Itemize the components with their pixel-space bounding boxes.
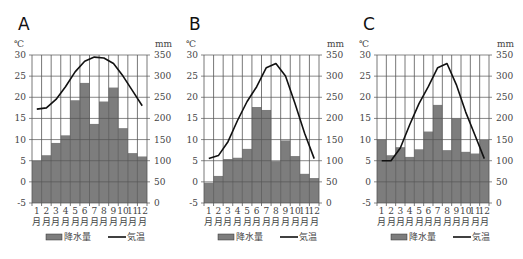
month-suffix-label: 月 (90, 217, 99, 227)
left-axis-tick: -5 (17, 198, 26, 208)
precipitation-bar (42, 155, 52, 203)
month-suffix-label: 月 (300, 217, 309, 227)
precipitation-bar (51, 143, 61, 203)
left-axis-tick: 25 (360, 71, 372, 81)
month-number-label: 5 (244, 206, 250, 216)
month-suffix-label: 月 (377, 217, 386, 227)
month-suffix-label: 月 (252, 217, 261, 227)
left-axis-tick: 20 (15, 92, 27, 102)
right-axis-tick: 100 (326, 156, 343, 166)
left-axis-tick: 0 (365, 177, 371, 187)
left-axis-tick: 5 (365, 156, 371, 166)
right-axis-tick: 200 (496, 113, 513, 123)
precipitation-bar (405, 157, 414, 203)
month-number-label: 6 (254, 206, 260, 216)
precipitation-bar (109, 88, 119, 203)
precipitation-bar (233, 158, 243, 203)
month-suffix-label: 月 (387, 217, 396, 227)
precipitation-bar (242, 149, 252, 203)
month-suffix-label: 月 (128, 217, 137, 227)
month-suffix-label: 月 (204, 217, 213, 227)
left-axis-tick: -5 (189, 198, 198, 208)
month-number-label: 7 (91, 206, 97, 216)
month-number-label: 2 (44, 206, 50, 216)
month-suffix-label: 月 (281, 217, 290, 227)
month-number-label: 6 (82, 206, 88, 216)
climate-chart-b: B ℃mm30350253002025015200101505100050-50… (172, 0, 347, 259)
month-number-label: 8 (444, 206, 450, 216)
right-axis-tick: 50 (154, 177, 166, 187)
right-axis-tick: 50 (496, 177, 508, 187)
month-suffix-label: 月 (51, 217, 60, 227)
month-number-label: 2 (216, 206, 222, 216)
precipitation-bar (300, 174, 310, 203)
month-number-label: 1 (379, 206, 385, 216)
month-number-label: 3 (397, 206, 403, 216)
legend-temperature-label: 気温 (127, 231, 145, 242)
left-axis-tick: -5 (362, 198, 371, 208)
month-number-label: 12 (479, 206, 490, 216)
right-axis-unit: mm (155, 39, 173, 49)
precipitation-bar (99, 102, 109, 203)
right-axis-tick: 100 (154, 156, 171, 166)
precipitation-bar (442, 150, 451, 203)
month-number-label: 8 (273, 206, 279, 216)
precipitation-bar (70, 100, 80, 203)
month-number-label: 7 (263, 206, 269, 216)
left-axis-tick: 0 (20, 177, 26, 187)
month-number-label: 9 (453, 206, 459, 216)
left-axis-tick: 25 (15, 71, 27, 81)
left-axis-tick: 0 (192, 177, 198, 187)
left-axis-unit: ℃ (359, 39, 369, 49)
right-axis-tick: 50 (326, 177, 338, 187)
left-axis-tick: 5 (20, 156, 26, 166)
right-axis-tick: 0 (326, 198, 332, 208)
month-number-label: 9 (111, 206, 117, 216)
month-suffix-label: 月 (291, 217, 300, 227)
right-axis-tick: 300 (154, 71, 171, 81)
month-number-label: 7 (435, 206, 441, 216)
precipitation-bar (433, 105, 442, 203)
month-number-label: 4 (407, 206, 413, 216)
right-axis-tick: 350 (154, 50, 171, 60)
right-axis-tick: 150 (154, 135, 171, 145)
right-axis-tick: 250 (496, 92, 513, 102)
right-axis-tick: 0 (154, 198, 160, 208)
month-suffix-label: 月 (433, 217, 442, 227)
right-axis-tick: 300 (326, 71, 343, 81)
left-axis-tick: 20 (187, 92, 199, 102)
month-number-label: 2 (388, 206, 394, 216)
climate-chart-c: C ℃mm30350253002025015200101505100050-50… (345, 0, 520, 259)
month-suffix-label: 月 (119, 217, 128, 227)
month-suffix-label: 月 (138, 217, 147, 227)
left-axis-unit: ℃ (14, 39, 24, 49)
precipitation-bar (386, 155, 395, 203)
month-number-label: 3 (53, 206, 59, 216)
left-axis-tick: 25 (187, 71, 199, 81)
precipitation-bar (290, 156, 300, 203)
climate-chart-a: A ℃mm30350253002025015200101505100050-50… (0, 0, 175, 259)
legend-precipitation-label: 降水量 (409, 231, 436, 242)
right-axis-tick: 250 (326, 92, 343, 102)
legend-precipitation-label: 降水量 (236, 231, 263, 242)
month-suffix-label: 月 (452, 217, 461, 227)
right-axis-tick: 350 (496, 50, 513, 60)
legend-temperature-label: 気温 (299, 231, 317, 242)
right-axis-tick: 150 (326, 135, 343, 145)
chart-svg: ℃mm30350253002025015200101505100050-501月… (172, 0, 347, 259)
precipitation-bar (90, 124, 100, 203)
left-axis-tick: 5 (192, 156, 198, 166)
left-axis-tick: 30 (187, 50, 199, 60)
left-axis-tick: 15 (187, 113, 199, 123)
month-suffix-label: 月 (233, 217, 242, 227)
chart-svg: ℃mm30350253002025015200101505100050-501月… (0, 0, 175, 259)
precipitation-bar (204, 183, 214, 203)
precipitation-bar (396, 147, 405, 203)
month-suffix-label: 月 (71, 217, 80, 227)
right-axis-unit: mm (327, 39, 345, 49)
precipitation-bar (461, 152, 470, 203)
month-suffix-label: 月 (405, 217, 414, 227)
month-suffix-label: 月 (271, 217, 280, 227)
month-suffix-label: 月 (424, 217, 433, 227)
legend-precipitation-swatch (391, 234, 407, 240)
